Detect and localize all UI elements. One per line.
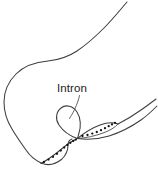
intron-diagram-figure: Intron bbox=[0, 0, 158, 177]
intron-diagram-canvas: Intron bbox=[0, 0, 158, 177]
bead-right-3 bbox=[96, 131, 98, 133]
bead-left-8 bbox=[72, 140, 74, 142]
strand-intron-loop bbox=[57, 106, 81, 139]
strand-beaded-left-edge bbox=[41, 139, 78, 164]
bead-right-7 bbox=[111, 123, 113, 125]
bead-left-1 bbox=[47, 158, 49, 160]
bead-right-6 bbox=[108, 125, 110, 127]
bead-left-6 bbox=[66, 144, 68, 146]
bead-right-2 bbox=[91, 132, 93, 134]
bead-left-5 bbox=[63, 146, 65, 148]
bead-right-5 bbox=[104, 127, 106, 129]
bead-left-4 bbox=[60, 149, 62, 151]
bead-group-left bbox=[43, 138, 77, 163]
bead-right-4 bbox=[100, 129, 102, 131]
bead-left-2 bbox=[52, 156, 54, 158]
bead-left-7 bbox=[69, 142, 71, 144]
bead-right-1 bbox=[86, 134, 88, 136]
bead-right-0 bbox=[81, 135, 83, 137]
strand-right-tail-lower bbox=[78, 106, 158, 139]
bead-left-3 bbox=[56, 153, 58, 155]
strand-right-tail bbox=[118, 99, 156, 124]
bead-left-9 bbox=[75, 138, 77, 140]
bead-right-8 bbox=[114, 122, 116, 124]
bead-left-0 bbox=[43, 161, 45, 163]
intron-label: Intron bbox=[57, 82, 87, 94]
